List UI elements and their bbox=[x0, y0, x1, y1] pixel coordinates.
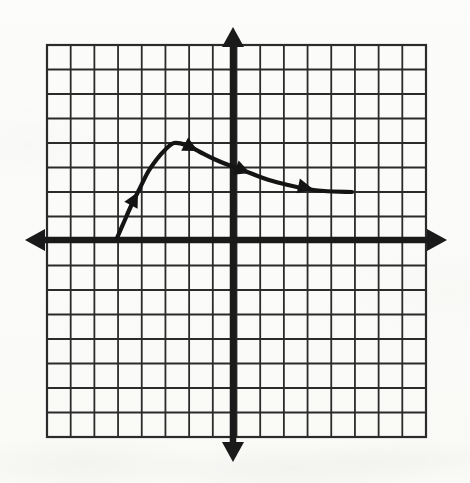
coordinate-plane-svg bbox=[0, 0, 470, 483]
x-axis-arrow-right bbox=[427, 229, 447, 251]
y-axis-arrow-down bbox=[222, 442, 244, 462]
y-axis bbox=[222, 27, 244, 462]
y-axis-arrow-up bbox=[222, 27, 244, 47]
axes-layer bbox=[25, 27, 447, 462]
x-axis-arrow-left bbox=[25, 229, 45, 251]
graph-figure bbox=[0, 0, 470, 483]
